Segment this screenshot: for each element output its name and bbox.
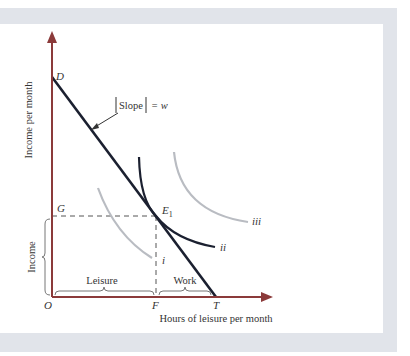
work-label: Work: [173, 275, 197, 286]
slope-label: Slope: [119, 100, 143, 111]
leisure-brace: [55, 287, 154, 295]
point-t-label: T: [213, 299, 220, 311]
origin-label: O: [44, 299, 52, 311]
indifference-curve-iii: [174, 152, 248, 222]
slope-pointer-arrowhead-icon: [91, 123, 99, 130]
point-e1-label: E1: [161, 204, 173, 219]
slope-equals-w: = w: [151, 100, 168, 111]
leisure-income-diagram: Income per month Income Leisure Work Hou…: [0, 0, 410, 356]
income-brace: [42, 219, 50, 295]
slope-pointer-line: [95, 113, 118, 127]
point-g-label: G: [57, 202, 65, 214]
leisure-label: Leisure: [86, 275, 118, 286]
x-axis-label: Hours of leisure per month: [159, 313, 273, 324]
curve-ii-label: ii: [220, 241, 226, 253]
curve-i-label: i: [162, 254, 165, 266]
curve-iii-label: iii: [252, 215, 261, 227]
income-label: Income: [26, 241, 37, 273]
work-brace: [159, 287, 211, 295]
x-axis-arrow-icon: [261, 292, 273, 302]
point-d-label: D: [55, 70, 64, 82]
point-f-label: F: [151, 299, 159, 311]
y-axis-label: Income per month: [23, 81, 34, 159]
y-axis-arrow-icon: [47, 31, 57, 43]
